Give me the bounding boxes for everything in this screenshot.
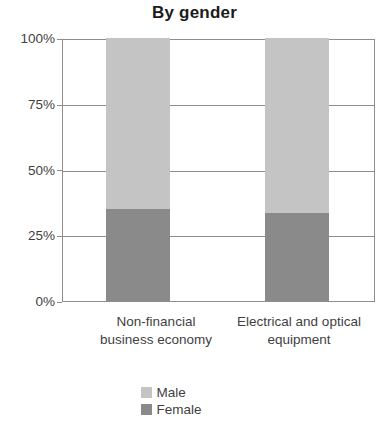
legend-item-male[interactable]: Male [141, 386, 249, 400]
bar-electrical-and-optical-equipment [265, 38, 329, 301]
bar-segment-female [265, 213, 329, 301]
bar-non-financial-business-economy [106, 38, 170, 301]
x-axis-category-label-1: Electrical and optical equipment [216, 313, 382, 349]
plot-area [62, 39, 375, 302]
legend-label-female: Female [157, 403, 202, 417]
legend-swatch-male-icon [141, 387, 152, 398]
legend-item-female[interactable]: Female [141, 403, 249, 417]
y-axis-tick-label-100: 100% [3, 32, 55, 46]
chart-container: By gender 100% 75% 50% 25% 0% Non-financ… [0, 0, 389, 435]
chart-legend: Male Female [0, 386, 389, 416]
x-axis-category-label-1-line-2: equipment [216, 331, 382, 349]
legend-label-male: Male [157, 386, 186, 400]
legend-swatch-female-icon [141, 404, 152, 415]
x-axis-category-label-0-line-2: business economy [76, 331, 236, 349]
bar-segment-male [106, 38, 170, 209]
y-axis-tick-label-0: 0% [3, 295, 55, 309]
x-axis-category-label-0-line-1: Non-financial [76, 313, 236, 331]
x-axis-category-label-1-line-1: Electrical and optical [216, 313, 382, 331]
y-axis-tick-label-25: 25% [3, 229, 55, 243]
x-axis-category-label-0: Non-financial business economy [76, 313, 236, 349]
chart-title: By gender [0, 3, 389, 23]
y-axis-tick-label-75: 75% [3, 98, 55, 112]
bar-segment-female [106, 209, 170, 301]
y-axis-tick-mark-0 [57, 302, 62, 303]
bar-segment-male [265, 38, 329, 213]
y-axis-tick-label-50: 50% [3, 164, 55, 178]
